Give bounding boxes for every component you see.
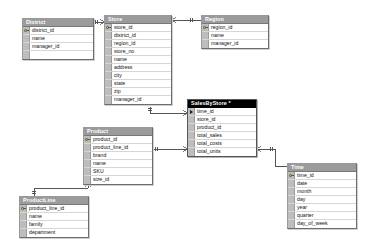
field-selector[interactable] xyxy=(188,148,195,156)
field-row[interactable]: name xyxy=(20,213,88,221)
field-selector[interactable] xyxy=(105,48,112,55)
field-row[interactable]: time_id xyxy=(288,172,356,180)
field-row[interactable]: total_units xyxy=(188,148,256,156)
entity-table-time[interactable]: Timetime_iddatemonthdayyearquarterday_of… xyxy=(287,163,357,229)
field-selector[interactable] xyxy=(23,51,30,59)
field-row[interactable]: year xyxy=(288,204,356,212)
field-row[interactable]: district_id xyxy=(105,32,171,40)
schema-diagram-canvas[interactable]: Districtdistrict_idnamemanager_idStorest… xyxy=(0,0,373,247)
field-row[interactable] xyxy=(23,51,93,59)
field-selector[interactable] xyxy=(105,64,112,71)
field-row[interactable]: zip xyxy=(105,88,171,96)
field-selector[interactable] xyxy=(105,40,112,47)
field-selector[interactable] xyxy=(188,132,195,139)
field-row[interactable]: manager_id xyxy=(202,40,268,48)
field-selector[interactable] xyxy=(84,160,91,167)
entity-table-district[interactable]: Districtdistrict_idnamemanager_id xyxy=(22,18,94,60)
field-selector[interactable] xyxy=(84,168,91,175)
field-selector[interactable] xyxy=(288,204,295,211)
entity-table-title-product[interactable]: Product xyxy=(84,128,152,136)
field-selector[interactable] xyxy=(23,35,30,42)
field-row[interactable]: state xyxy=(105,80,171,88)
field-row[interactable]: district_id xyxy=(23,27,93,35)
field-selector[interactable] xyxy=(288,212,295,219)
entity-table-title-productline[interactable]: ProductLine xyxy=(20,197,88,205)
field-selector[interactable] xyxy=(105,32,112,39)
field-row[interactable]: region_id xyxy=(202,24,268,32)
field-name: region_id xyxy=(112,40,171,47)
field-name: SKU xyxy=(91,168,152,175)
entity-table-title-time[interactable]: Time xyxy=(288,164,356,172)
field-row[interactable]: store_id xyxy=(188,116,256,124)
entity-table-title-store[interactable]: Store xyxy=(105,16,171,24)
field-list-store: store_iddistrict_idregion_idstore_noname… xyxy=(105,24,171,104)
field-row[interactable]: SKU xyxy=(84,168,152,176)
field-row[interactable]: region_id xyxy=(105,40,171,48)
field-row[interactable]: brand xyxy=(84,152,152,160)
entity-table-region[interactable]: Regionregion_idnamemanager_id xyxy=(201,15,269,49)
field-row[interactable]: total_sales xyxy=(188,132,256,140)
field-selector[interactable] xyxy=(105,56,112,63)
field-selector[interactable] xyxy=(105,88,112,95)
field-selector[interactable] xyxy=(202,32,209,39)
primary-key-icon[interactable] xyxy=(23,27,30,34)
field-selector[interactable] xyxy=(84,176,91,184)
field-name: manager_id xyxy=(209,40,268,48)
key-icon xyxy=(24,29,29,34)
field-selector[interactable] xyxy=(288,196,295,203)
field-row[interactable]: total_costs xyxy=(188,140,256,148)
field-selector[interactable] xyxy=(202,40,209,48)
field-row[interactable]: store_no xyxy=(105,48,171,56)
field-selector[interactable] xyxy=(188,116,195,123)
field-row[interactable]: address xyxy=(105,64,171,72)
field-row[interactable]: manager_id xyxy=(105,96,171,104)
entity-table-salesbystore[interactable]: SalesByStore *time_idstore_idproduct_idt… xyxy=(187,99,257,157)
current-row-marker-icon[interactable] xyxy=(188,108,195,115)
field-selector[interactable] xyxy=(288,188,295,195)
field-row[interactable]: time_id xyxy=(188,108,256,116)
primary-key-icon[interactable] xyxy=(20,205,27,212)
field-row[interactable]: product_line_id xyxy=(84,144,152,152)
field-selector[interactable] xyxy=(105,80,112,87)
field-selector[interactable] xyxy=(84,152,91,159)
field-selector[interactable] xyxy=(188,124,195,131)
entity-table-productline[interactable]: ProductLineproduct_line_idnamefamilydepa… xyxy=(19,196,89,238)
field-selector[interactable] xyxy=(20,229,27,237)
field-selector[interactable] xyxy=(20,221,27,228)
field-selector[interactable] xyxy=(23,43,30,50)
field-row[interactable]: manager_id xyxy=(23,43,93,51)
entity-table-title-region[interactable]: Region xyxy=(202,16,268,24)
field-row[interactable]: quarter xyxy=(288,212,356,220)
primary-key-icon[interactable] xyxy=(84,136,91,143)
field-selector[interactable] xyxy=(20,213,27,220)
field-row[interactable]: product_id xyxy=(188,124,256,132)
field-selector[interactable] xyxy=(288,180,295,187)
field-selector[interactable] xyxy=(84,144,91,151)
field-row[interactable]: city xyxy=(105,72,171,80)
field-row[interactable]: family xyxy=(20,221,88,229)
field-selector[interactable] xyxy=(105,96,112,104)
field-row[interactable]: store_id xyxy=(105,24,171,32)
field-row[interactable]: name xyxy=(84,160,152,168)
field-row[interactable]: date xyxy=(288,180,356,188)
field-selector[interactable] xyxy=(188,140,195,147)
primary-key-icon[interactable] xyxy=(105,24,112,31)
primary-key-icon[interactable] xyxy=(288,172,295,179)
field-row[interactable]: size_id xyxy=(84,176,152,184)
entity-table-title-district[interactable]: District xyxy=(23,19,93,27)
field-selector[interactable] xyxy=(288,220,295,228)
field-row[interactable]: product_id xyxy=(84,136,152,144)
field-row[interactable]: product_line_id xyxy=(20,205,88,213)
entity-table-title-salesbystore[interactable]: SalesByStore * xyxy=(188,100,256,108)
entity-table-product[interactable]: Productproduct_idproduct_line_idbrandnam… xyxy=(83,127,153,185)
entity-table-store[interactable]: Storestore_iddistrict_idregion_idstore_n… xyxy=(104,15,172,105)
field-row[interactable]: day xyxy=(288,196,356,204)
field-row[interactable]: name xyxy=(23,35,93,43)
field-row[interactable]: day_of_week xyxy=(288,220,356,228)
field-row[interactable]: name xyxy=(202,32,268,40)
field-row[interactable]: department xyxy=(20,229,88,237)
field-selector[interactable] xyxy=(105,72,112,79)
field-row[interactable]: month xyxy=(288,188,356,196)
primary-key-icon[interactable] xyxy=(202,24,209,31)
field-row[interactable]: name xyxy=(105,56,171,64)
